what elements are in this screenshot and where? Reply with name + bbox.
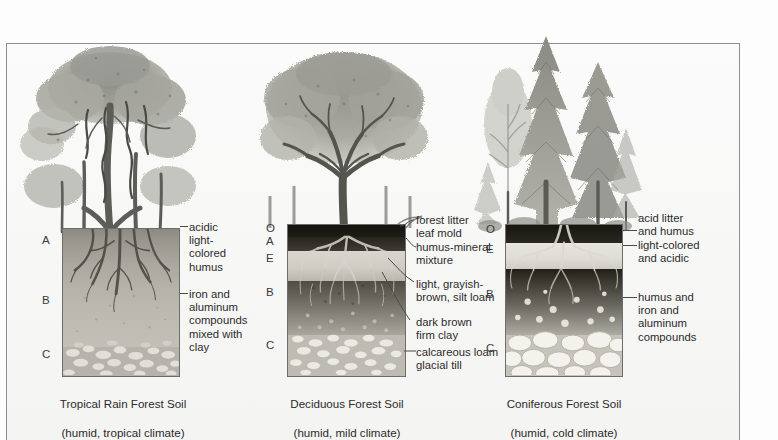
figure-stage: A B C acidic light- colored humus iron a… [0, 0, 778, 440]
caption-tropical: Tropical Rain Forest Soil (humid, tropic… [18, 383, 228, 440]
callout-light-colored-acidic: light-colored and acidic [638, 239, 730, 265]
horizon-label-B: B [486, 288, 494, 300]
callout-humus-mineral: humus-mineral mixture [416, 241, 512, 267]
callout-silt-loam: light, grayish- brown, silt loam [416, 278, 516, 304]
callout-iron-aluminum: iron and aluminum compounds mixed with c… [189, 288, 267, 354]
horizon-layer-A [63, 229, 179, 287]
leader-line-iron-aluminum [180, 293, 188, 294]
horizon-label-A: A [266, 235, 274, 247]
leader-line-light-colored [623, 245, 637, 246]
horizon-label-O: O [266, 222, 275, 234]
horizon-label-E: E [486, 243, 494, 255]
leader-line-acidic-humus [180, 226, 188, 227]
callout-acid-litter: acid litter and humus [638, 212, 730, 238]
tropical-rainforest-tree-art [18, 36, 198, 232]
horizon-label-B: B [42, 294, 50, 306]
caption-deciduous-line1: Deciduous Forest Soil [290, 397, 403, 410]
coniferous-tree-art [474, 32, 644, 230]
horizon-layer-E [506, 243, 622, 269]
horizon-label-A: A [42, 234, 50, 246]
leader-line-humus-iron [623, 297, 637, 298]
caption-tropical-line2: (humid, tropical climate) [61, 426, 184, 439]
horizon-label-C: C [266, 339, 275, 351]
callout-humus-iron-aluminum: humus and iron and aluminum compounds [638, 291, 730, 344]
caption-deciduous-line2: (humid, mild climate) [294, 426, 401, 439]
horizon-label-B: B [266, 286, 274, 298]
soil-column-coniferous [505, 224, 623, 377]
callout-firm-clay: dark brown firm clay [416, 316, 508, 342]
horizon-layer-B [63, 287, 179, 347]
deciduous-tree-art [258, 46, 430, 228]
horizon-label-O: O [486, 223, 495, 235]
horizon-label-C: C [42, 348, 51, 360]
soil-column-tropical [62, 228, 180, 377]
horizon-layer-B [506, 269, 622, 335]
caption-coniferous-line1: Coniferous Forest Soil [507, 397, 622, 410]
caption-coniferous-line2: (humid, cold climate) [511, 426, 618, 439]
leader-line-acid-litter [623, 230, 637, 231]
caption-coniferous: Coniferous Forest Soil (humid, cold clim… [459, 383, 669, 440]
horizon-layer-O [506, 225, 622, 243]
horizon-layer-C [63, 347, 179, 377]
horizon-label-E: E [266, 252, 274, 264]
callout-acidic-humus: acidic light- colored humus [189, 221, 261, 274]
horizon-label-C: C [486, 342, 495, 354]
caption-tropical-line1: Tropical Rain Forest Soil [60, 397, 187, 410]
horizon-layer-C [506, 335, 622, 377]
caption-deciduous: Deciduous Forest Soil (humid, mild clima… [242, 383, 452, 440]
